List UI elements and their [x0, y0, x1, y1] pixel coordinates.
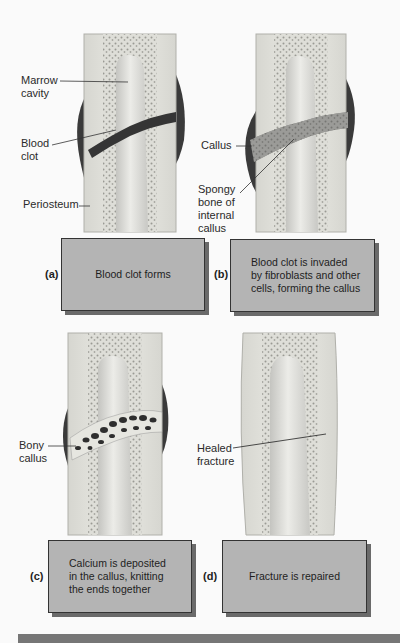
label-healed-fracture: Healed fracture [197, 442, 234, 468]
caption-box-d: Fracture is repaired [222, 540, 367, 613]
label-line: Healed [197, 442, 234, 455]
bottom-divider-bar [18, 634, 400, 643]
panel-letter-d: (d) [203, 570, 217, 582]
label-line: fracture [197, 455, 234, 468]
caption-text-d: Fracture is repaired [249, 570, 340, 583]
